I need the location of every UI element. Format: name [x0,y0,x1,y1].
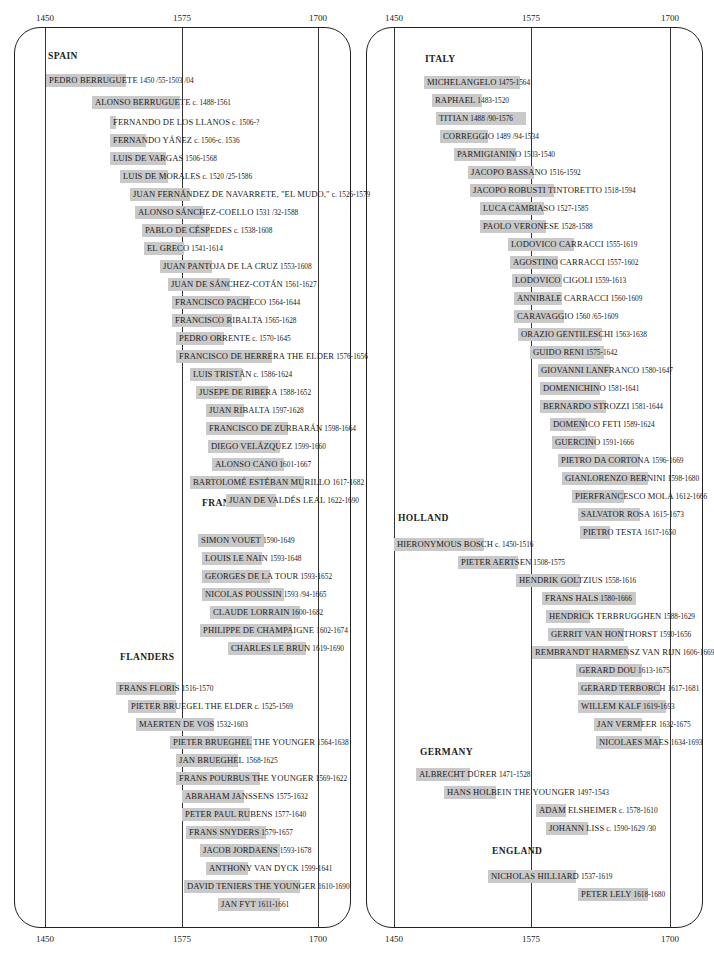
artist-entry: GEORGES DE LA TOUR 1593-1652 [202,570,332,583]
artist-entry: GUIDO RENI 1575-1642 [530,346,618,359]
artist-entry: ABRAHAM JANSSENS 1575-1632 [182,790,308,803]
artist-entry: WILLEM KALF 1619-1693 [578,700,675,713]
artist-entry: DOMENICHINO 1581-1641 [540,382,639,395]
artist-label: FRANS SNYDERS 1579-1657 [186,828,293,837]
artist-name: JACOPO ROBUSTI TINTORETTO [473,185,602,195]
artist-label: JACOPO ROBUSTI TINTORETTO 1518-1594 [470,186,636,195]
artist-name: PETER PAUL RUBENS [185,809,273,819]
artist-dates: 1590-1649 [263,536,295,545]
artist-entry: FERNANDO YÁÑEZ c. 1506-c. 1536 [110,134,240,147]
artist-name: NICOLAES MAES [599,737,669,747]
artist-entry: EL GRECO 1541-1614 [144,242,223,255]
artist-dates: c. 1506-c. 1536 [194,136,239,145]
artist-dates: 1531 /32-1588 [256,208,299,217]
artist-dates: 1588-1629 [663,612,695,621]
artist-dates: 1557-1602 [607,258,639,267]
artist-label: FRANCISCO DE HERRERA THE ELDER 1576-1656 [176,352,368,361]
artist-dates: 1593 /94-1665 [284,590,327,599]
artist-dates: c. 1538-1608 [234,226,273,235]
artist-dates: 1564-1638 [317,738,349,747]
artist-label: PIETRO DA CORTONA 1596-1669 [558,456,684,465]
artist-name: JACOPO BASSANO [471,167,547,177]
artist-name: ORAZIO GENTILESCHI [521,329,613,339]
artist-dates: 1622-1690 [327,496,359,505]
artist-dates: 1617-1650 [644,528,676,537]
axis-tick-right-bottom-1575: 1575 [522,934,540,944]
section-heading-germany: GERMANY [420,747,473,757]
artist-entry: RAPHAEL 1483-1520 [432,94,509,107]
artist-label: ORAZIO GENTILESCHI 1563-1638 [518,330,647,339]
artist-dates: c. 1525-1569 [255,702,294,711]
artist-dates: c. 1590-1629 /30 [606,824,656,833]
artist-dates: 1600-1682 [292,608,324,617]
artist-label: GERRIT VAN HONTHORST 1590-1656 [548,630,691,639]
artist-name: PARMIGIANINO [457,149,521,159]
artist-dates: 1506-1568 [185,154,217,163]
artist-name: HIERONYMOUS BOSCH [397,539,493,549]
artist-entry: JAN FYT 1611-1661 [218,898,289,911]
artist-name: PIETER BRUEGHEL THE YOUNGER [173,737,315,747]
artist-entry: JAN BRUEGHEL 1568-1625 [176,754,278,767]
artist-label: PEDRO BERRUGUETE 1450 /55-1503 /04 [46,76,194,85]
axis-tick-left-top-1575: 1575 [173,13,191,23]
artist-label: FERNANDO YÁÑEZ c. 1506-c. 1536 [110,136,240,145]
artist-dates: 1471-1528 [499,770,531,779]
artist-dates: 1632-1675 [659,720,691,729]
artist-name: PIETER BRUEGEL THE ELDER [131,701,253,711]
artist-name: NICOLAS POUSSIN [205,589,282,599]
artist-entry: GERARD DOU 1613-1675 [576,664,670,677]
artist-name: DOMENICHINO [543,383,606,393]
artist-entry: CLAUDE LORRAIN 1600-1682 [210,606,323,619]
artist-entry: ALBRECHT DÜRER 1471-1528 [416,768,531,781]
artist-entry: MAERTEN DE VOS 1532-1603 [136,718,248,731]
artist-entry: LOUIS LE NAIN 1593-1648 [202,552,302,565]
artist-label: LODOVICO CIGOLI 1559-1613 [512,276,626,285]
artist-dates: c. 1488-1561 [193,98,232,107]
artist-label: JACOB JORDAENS 1593-1678 [200,846,311,855]
artist-name: HENDRIK GOLTZIUS [519,575,603,585]
artist-label: FRANCISCO PACHECO 1564-1644 [172,298,300,307]
axis-tick-right-top-1575: 1575 [522,13,540,23]
artist-entry: FRANCISCO DE ZURBARÁN 1598-1664 [206,422,356,435]
artist-dates: c. 1526-1579 [332,190,371,199]
artist-name: FRANCISCO PACHECO [175,297,266,307]
artist-dates: 1565-1628 [265,316,297,325]
artist-name: JAN VERMEER [597,719,657,729]
artist-entry: ALONSO SÁNCHEZ-COELLO 1531 /32-1588 [135,206,298,219]
artist-label: FRANCISCO DE ZURBARÁN 1598-1664 [206,424,356,433]
artist-label: GIOVANNI LANFRANCO 1580-1647 [538,366,673,375]
axis-tick-right-top-1450: 1450 [385,13,403,23]
artist-entry: PIETER BRUEGEL THE ELDER c. 1525-1569 [128,700,293,713]
artist-entry: PIETRO DA CORTONA 1596-1669 [558,454,684,467]
artist-label: FRANS HALS 1580-1666 [542,594,632,603]
artist-label: PIETRO TESTA 1617-1650 [580,528,676,537]
artist-entry: TITIAN 1488 /90-1576 [436,112,513,125]
artist-name: GERARD TERBORCH [581,683,666,693]
artist-name: PIETER AERTSEN [461,557,531,567]
artist-entry: PAOLO VERONESE 1528-1588 [480,220,593,233]
artist-dates: 1610-1690 [318,882,350,891]
artist-dates: 1606-1669 [683,648,714,657]
artist-entry: LODOVICO CARRACCI 1555-1619 [508,238,637,251]
artist-entry: PEDRO BERRUGUETE 1450 /55-1503 /04 [46,74,194,87]
artist-name: PEDRO BERRUGUETE [49,75,138,85]
artist-label: PAOLO VERONESE 1528-1588 [480,222,593,231]
artist-dates: 1527-1585 [557,204,589,213]
artist-label: JUSEPE DE RIBERA 1588-1652 [196,388,311,397]
artist-name: SIMON VOUET [201,535,261,545]
artist-entry: NICOLAS POUSSIN 1593 /94-1665 [202,588,327,601]
artist-dates: c. 1520 /25-1586 [202,172,252,181]
artist-label: JUAN FERNÁNDEZ DE NAVARRETE, "EL MUDO," … [130,190,370,199]
artist-dates: 1599-1660 [294,442,326,451]
artist-name: LOUIS LE NAIN [205,553,268,563]
artist-label: ALONSO SÁNCHEZ-COELLO 1531 /32-1588 [135,208,298,217]
artist-entry: GERRIT VAN HONTHORST 1590-1656 [548,628,691,641]
artist-label: ADAM ELSHEIMER c. 1578-1610 [536,806,658,815]
artist-label: HIERONYMOUS BOSCH c. 1450-1516 [394,540,534,549]
artist-label: PETER PAUL RUBENS 1577-1640 [182,810,306,819]
artist-dates: 1602-1674 [316,626,348,635]
artist-label: NICOLAS POUSSIN 1593 /94-1665 [202,590,327,599]
artist-name: JUSEPE DE RIBERA [199,387,277,397]
artist-entry: PETER PAUL RUBENS 1577-1640 [182,808,306,821]
artist-dates: 1561-1627 [285,280,317,289]
